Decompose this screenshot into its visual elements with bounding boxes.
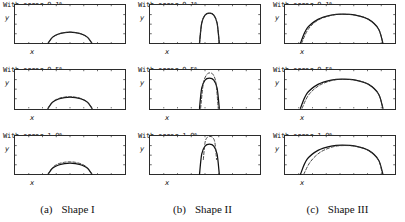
y-axis-label: y [140,14,144,22]
true-shape-curve [48,163,92,174]
caption-tag: (c) [307,203,319,215]
panel-cell-r1c1: With error 0.1% y x [0,0,135,65]
plot-svg [285,5,395,43]
y-axis-label: y [275,145,279,153]
panel-cell-r3c2: With error 1.0% y x [135,131,270,196]
x-axis-label: x [30,179,34,187]
plot-curves [48,97,92,109]
reconstructed-curve [48,97,92,109]
plot-panel [14,135,126,175]
plot-ticks [285,5,395,43]
plot-svg [150,70,260,108]
x-axis-label: x [165,114,169,122]
panel-cell-r2c1: With error 0.5% y x [0,65,135,130]
true-shape-curve [300,14,383,43]
plot-ticks [150,5,260,43]
plot-panel [284,69,396,109]
plot-svg [15,136,125,174]
panel-cell-r1c2: With error 0.1% y x [135,0,270,65]
figure-shape-reconstruction: With error 0.1% y x With error 0.1% y x [0,0,405,222]
panel-grid: With error 0.1% y x With error 0.1% y x [0,0,405,196]
y-axis-label: y [275,14,279,22]
plot-svg [15,70,125,108]
true-shape-curve [48,32,92,43]
reconstructed-curve [302,80,383,109]
caption-tag: (b) [173,203,186,215]
plot-curves [200,13,220,43]
plot-curves [300,145,383,174]
plot-ticks [15,70,125,108]
plot-panel [14,4,126,44]
plot-panel [149,4,261,44]
plot-curves [48,32,92,43]
y-axis-label: y [5,145,9,153]
plot-svg [285,136,395,174]
plot-svg [150,136,260,174]
plot-panel [14,69,126,109]
caption-shape-3: (c) Shape III [270,196,405,222]
y-axis-label: y [140,79,144,87]
x-axis-label: x [300,114,304,122]
reconstructed-curve [304,145,383,174]
plot-ticks [285,70,395,108]
y-axis-label: y [275,79,279,87]
plot-curves [200,136,220,174]
plot-curves [48,162,92,174]
plot-ticks [15,5,125,43]
reconstructed-curve [200,13,220,43]
caption-label: Shape I [61,203,94,215]
plot-panel [149,69,261,109]
plot-ticks [15,136,125,174]
plot-curves [300,14,383,43]
x-axis-label: x [30,48,34,56]
x-axis-label: x [30,114,34,122]
true-shape-curve [48,98,92,109]
x-axis-label: x [300,179,304,187]
caption-label: Shape II [195,203,232,215]
panel-cell-r2c2: With error 0.5% y x [135,65,270,130]
caption-shape-1: (a) Shape I [0,196,135,222]
true-shape-curve [200,13,220,43]
y-axis-label: y [5,14,9,22]
true-shape-curve [300,145,383,174]
panel-cell-r2c3: With error 0.5% y x [270,65,405,130]
caption-shape-2: (b) Shape II [135,196,270,222]
x-axis-label: x [165,48,169,56]
plot-ticks [285,136,395,174]
x-axis-label: x [300,48,304,56]
plot-svg [285,70,395,108]
reconstructed-curve [48,32,92,43]
plot-svg [150,5,260,43]
plot-ticks [150,70,260,108]
panel-cell-r1c3: With error 0.1% y x [270,0,405,65]
plot-curves [300,79,383,108]
true-shape-curve [300,79,383,108]
x-axis-label: x [165,179,169,187]
y-axis-label: y [5,79,9,87]
y-axis-label: y [140,145,144,153]
reconstructed-curve [302,14,383,43]
panel-cell-r3c3: With error 1.0% y x [270,131,405,196]
caption-label: Shape III [328,203,369,215]
caption-tag: (a) [40,203,52,215]
caption-row: (a) Shape I (b) Shape II (c) Shape III [0,196,405,222]
plot-svg [15,5,125,43]
plot-panel [149,135,261,175]
plot-panel [284,4,396,44]
panel-cell-r3c1: With error 1.0% y x [0,131,135,196]
plot-curves [200,73,220,108]
plot-panel [284,135,396,175]
